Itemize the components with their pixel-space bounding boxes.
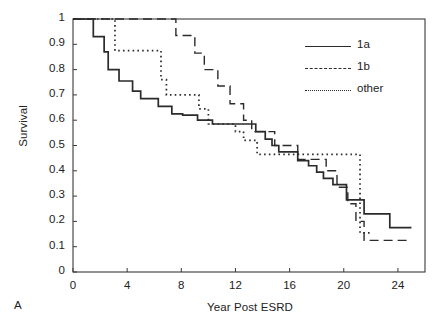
y-tick-label: 0.8 <box>25 62 65 74</box>
y-tick-label: 0.6 <box>25 112 65 124</box>
survival-chart-figure: Survival Year Post ESRD A 00.10.20.30.40… <box>0 0 448 326</box>
y-tick-label: 1 <box>25 11 65 23</box>
legend-label-other: other <box>357 82 383 94</box>
panel-letter: A <box>14 299 22 311</box>
x-tick-label: 0 <box>53 279 93 291</box>
legend-label-1a: 1a <box>357 38 370 50</box>
x-axis-title: Year Post ESRD <box>160 301 340 313</box>
chart-legend: 1a 1b other <box>305 38 413 98</box>
legend-label-1b: 1b <box>357 60 370 72</box>
x-tick-label: 16 <box>270 279 310 291</box>
y-tick-label: 0.2 <box>25 213 65 225</box>
y-tick-label: 0.3 <box>25 188 65 200</box>
legend-item-1a: 1a <box>305 38 413 56</box>
y-tick-label: 0.9 <box>25 36 65 48</box>
y-tick-label: 0.4 <box>25 163 65 175</box>
legend-swatch-dotted-icon <box>305 90 351 93</box>
legend-item-other: other <box>305 82 413 100</box>
legend-item-1b: 1b <box>305 60 413 78</box>
x-tick-label: 12 <box>215 279 255 291</box>
x-tick-label: 4 <box>107 279 147 291</box>
x-tick-label: 20 <box>324 279 364 291</box>
y-tick-label: 0.7 <box>25 87 65 99</box>
legend-swatch-solid-icon <box>305 46 351 49</box>
y-tick-label: 0 <box>25 264 65 276</box>
y-tick-label: 0.1 <box>25 239 65 251</box>
x-tick-label: 24 <box>378 279 418 291</box>
legend-swatch-dashed-icon <box>305 68 351 71</box>
x-tick-label: 8 <box>161 279 201 291</box>
y-tick-label: 0.5 <box>25 138 65 150</box>
